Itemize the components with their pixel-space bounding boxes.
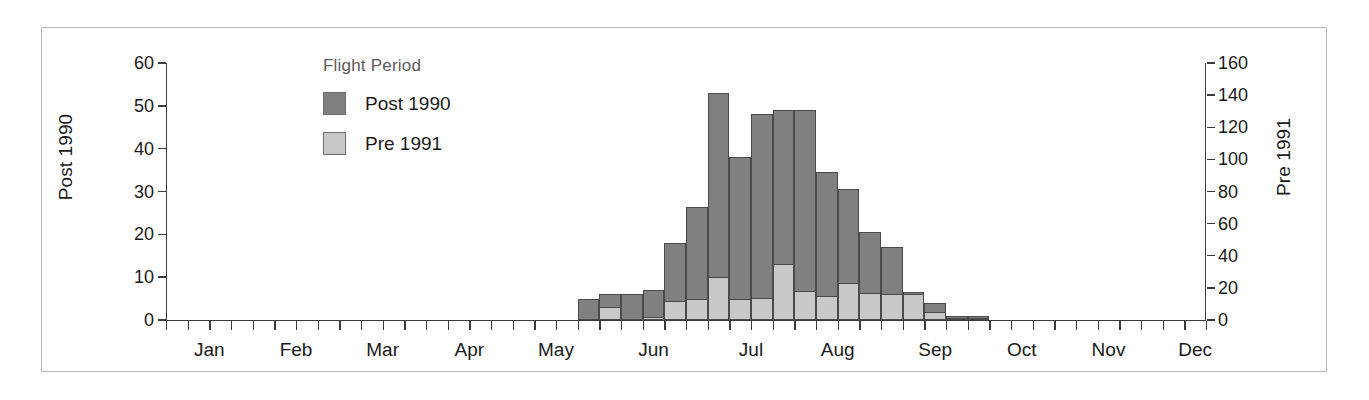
- chart-figure: Post 1990 Pre 1991 0102030405060 0204060…: [41, 27, 1327, 372]
- legend: Flight Period Post 1990Pre 1991: [323, 57, 451, 172]
- bar-segment-pre-1991: [643, 317, 665, 320]
- legend-swatch-icon: [323, 132, 346, 155]
- bar-group: [881, 319, 903, 320]
- bar-segment-pre-1991: [816, 296, 838, 320]
- bar-segment-post-1990: [729, 157, 751, 320]
- bar-segment-post-1990: [643, 290, 665, 320]
- bar-group: [968, 319, 990, 320]
- bar-group: [643, 319, 665, 320]
- bar-segment-post-1990: [621, 294, 643, 320]
- bar-segment-post-1990: [794, 110, 816, 320]
- bar-group: [924, 319, 946, 320]
- bar-segment-pre-1991: [708, 277, 730, 320]
- bar-segment-pre-1991: [881, 294, 903, 320]
- legend-item-post-1990: Post 1990: [323, 92, 451, 115]
- legend-title: Flight Period: [323, 57, 451, 74]
- bar-segment-post-1990: [578, 299, 600, 320]
- bar-group: [838, 319, 860, 320]
- plot-area: 0102030405060 020406080100120140160 JanF…: [42, 28, 1328, 373]
- bar-segment-pre-1991: [729, 299, 751, 320]
- bar-segment-pre-1991: [664, 301, 686, 320]
- legend-label: Pre 1991: [365, 134, 442, 153]
- bar-segment-pre-1991: [903, 294, 925, 320]
- bar-group: [751, 319, 773, 320]
- legend-items: Post 1990Pre 1991: [323, 92, 451, 155]
- bar-segment-pre-1991: [599, 307, 621, 320]
- bar-group: [946, 319, 968, 320]
- legend-item-pre-1991: Pre 1991: [323, 132, 451, 155]
- bar-group: [773, 319, 795, 320]
- bar-group: [816, 319, 838, 320]
- bar-group: [664, 319, 686, 320]
- bar-segment-pre-1991: [794, 291, 816, 320]
- bar-group: [903, 319, 925, 320]
- bar-segment-pre-1991: [773, 264, 795, 320]
- bar-group: [859, 319, 881, 320]
- bar-group: [599, 319, 621, 320]
- bar-segment-pre-1991: [859, 293, 881, 320]
- bar-group: [686, 319, 708, 320]
- bar-segment-pre-1991: [751, 298, 773, 320]
- bar-segment-pre-1991: [924, 312, 946, 320]
- bar-group: [794, 319, 816, 320]
- bar-segment-pre-1991: [686, 299, 708, 320]
- bar-group: [621, 319, 643, 320]
- bar-segment-pre-1991: [838, 283, 860, 320]
- legend-swatch-icon: [323, 92, 346, 115]
- legend-label: Post 1990: [365, 94, 451, 113]
- bar-segment-post-1990: [751, 114, 773, 320]
- bar-segment-pre-1991: [946, 318, 968, 320]
- bar-group: [578, 319, 600, 320]
- bar-group: [729, 319, 751, 320]
- bar-segment-pre-1991: [968, 318, 990, 320]
- bar-series-container: [42, 28, 1328, 373]
- bar-group: [708, 319, 730, 320]
